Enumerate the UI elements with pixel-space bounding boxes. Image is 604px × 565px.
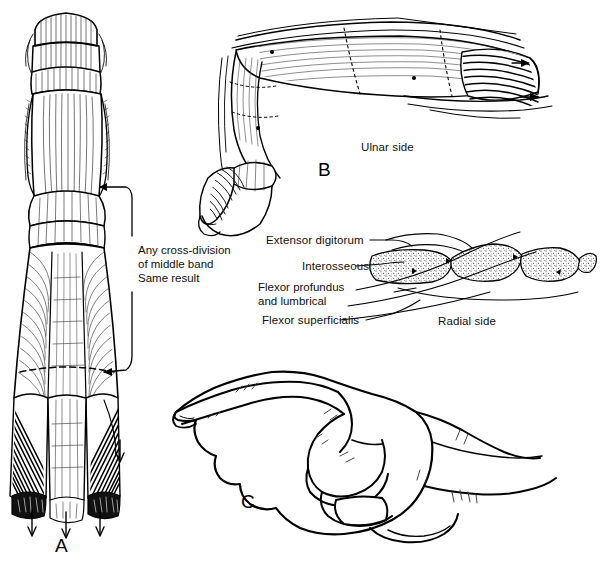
- panel-letter-a: A: [55, 536, 68, 556]
- cross-division-caption: Any cross-division of middle band Same r…: [138, 243, 258, 285]
- radial-side-label: Radial side: [438, 315, 496, 329]
- panel-letter-b: B: [318, 160, 331, 180]
- label-interosseous: Interosseous: [302, 260, 369, 274]
- anatomy-figure: Any cross-division of middle band Same r…: [0, 0, 604, 565]
- panel-letter-c: C: [241, 492, 255, 512]
- panel-b-artwork: [199, 18, 552, 236]
- panel-a-artwork: [8, 13, 132, 538]
- label-flexor-profundus-lumbrical: Flexor profundus and lumbrical: [258, 280, 398, 308]
- label-flexor-superficialis: Flexor superficialis: [262, 314, 359, 328]
- label-extensor-digitorum: Extensor digitorum: [266, 234, 364, 248]
- ulnar-side-label: Ulnar side: [361, 141, 414, 155]
- panel-c-artwork: [173, 372, 556, 543]
